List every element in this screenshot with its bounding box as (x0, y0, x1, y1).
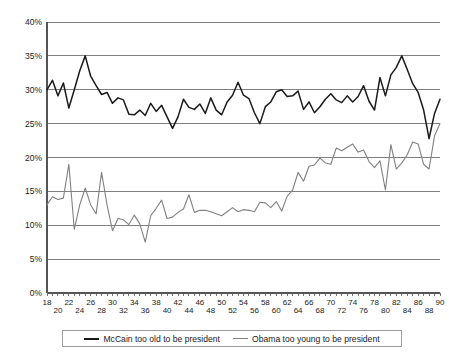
data-series-group (47, 56, 440, 242)
x-axis-tick-label: 24 (75, 306, 84, 315)
y-axis-tick-label: 35% (25, 51, 42, 61)
chart-container: 0%5%10%15%20%25%30%35%40% 18202224262830… (0, 0, 463, 353)
x-axis-tick-label: 32 (119, 306, 128, 315)
x-axis-tick-label: 64 (294, 306, 303, 315)
y-axis-tick-label: 40% (25, 17, 42, 27)
legend-entry-obama: Obama too young to be president (233, 334, 380, 344)
legend-label-mccain: McCain too old to be president (103, 334, 220, 344)
series-line-obama (47, 124, 440, 243)
x-axis-tick-label: 88 (425, 306, 434, 315)
x-axis-tick-label: 28 (97, 306, 106, 315)
x-axis-tick-label: 54 (239, 298, 248, 307)
x-axis-tick-label: 50 (217, 298, 226, 307)
line-chart-plot: 0%5%10%15%20%25%30%35%40% 18202224262830… (0, 0, 463, 353)
y-axis-tick-label: 10% (25, 220, 42, 230)
x-axis-tick-label: 82 (392, 298, 401, 307)
x-axis-tick-label: 60 (272, 306, 281, 315)
x-axis-tick-label: 42 (174, 298, 183, 307)
x-axis-tick-labels: 1820222426283032343638404244464850525456… (43, 298, 445, 315)
y-axis-tick-label: 25% (25, 119, 42, 129)
x-axis-tick-label: 48 (206, 306, 215, 315)
y-axis-tick-labels: 0%5%10%15%20%25%30%35%40% (25, 17, 42, 298)
legend-label-obama: Obama too young to be president (252, 334, 380, 344)
x-axis-tick-label: 58 (261, 298, 270, 307)
x-axis-tick-label: 84 (403, 306, 412, 315)
legend-swatch-mccain (84, 338, 99, 340)
x-axis-tick-label: 46 (195, 298, 204, 307)
x-axis-tick-label: 20 (53, 306, 62, 315)
x-axis-tick-label: 52 (228, 306, 237, 315)
y-axis-tick-label: 20% (25, 153, 42, 163)
x-axis-tick-label: 40 (163, 306, 172, 315)
x-axis-tick-label: 72 (337, 306, 346, 315)
x-axis-tick-label: 36 (141, 306, 150, 315)
chart-legend: McCain too old to be president Obama too… (62, 330, 402, 347)
x-axis-tick-label: 68 (315, 306, 324, 315)
series-line-mccain (47, 56, 440, 139)
y-axis-tick-label: 0% (30, 288, 43, 298)
y-axis-tick-label: 15% (25, 186, 42, 196)
x-axis-tick-label: 74 (348, 298, 357, 307)
x-axis-tick-label: 30 (108, 298, 117, 307)
x-axis-tick-label: 62 (283, 298, 292, 307)
y-axis-tick-label: 30% (25, 85, 42, 95)
y-axis-tick-label: 5% (30, 254, 43, 264)
x-axis-tick-label: 80 (381, 306, 390, 315)
gridlines-group (47, 22, 440, 293)
x-axis-tick-label: 22 (64, 298, 73, 307)
x-axis-tick-label: 76 (359, 306, 368, 315)
legend-entry-mccain: McCain too old to be president (84, 334, 220, 344)
x-axis-tick-label: 44 (184, 306, 193, 315)
x-axis-tick-label: 26 (86, 298, 95, 307)
x-axis-tick-label: 34 (130, 298, 139, 307)
x-axis-tick-label: 66 (305, 298, 314, 307)
x-axis-tick-label: 70 (326, 298, 335, 307)
x-axis-tick-label: 18 (43, 298, 52, 307)
x-axis-tick-label: 90 (436, 298, 445, 307)
legend-swatch-obama (233, 338, 248, 339)
x-axis-tick-label: 38 (152, 298, 161, 307)
x-axis-tick-label: 56 (250, 306, 259, 315)
x-axis-tick-label: 86 (414, 298, 423, 307)
x-axis-tick-label: 78 (370, 298, 379, 307)
